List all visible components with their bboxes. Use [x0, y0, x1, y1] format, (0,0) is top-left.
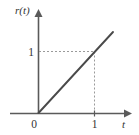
ramp-function-line [39, 32, 114, 113]
y-axis-arrow-icon [35, 9, 43, 17]
origin-tick-label: 0 [31, 118, 37, 130]
x-tick-label-1: 1 [92, 118, 98, 130]
ramp-function-figure: r(t) t 0 1 1 [0, 0, 139, 135]
x-axis-label: t [122, 118, 126, 130]
ramp-function-chart: r(t) t 0 1 1 [0, 0, 139, 135]
x-axis-arrow-icon [124, 110, 132, 118]
y-axis-label: r(t) [15, 4, 30, 17]
y-tick-label-1: 1 [28, 46, 34, 58]
